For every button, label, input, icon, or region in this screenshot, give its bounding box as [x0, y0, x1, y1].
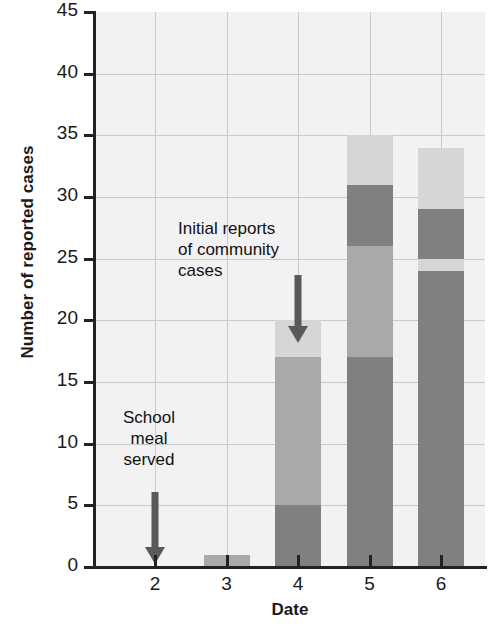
x-tick-mark	[440, 555, 443, 567]
gridline-vertical	[155, 12, 156, 567]
chart-figure: Number of reported cases School meal ser…	[0, 0, 499, 636]
y-tick-label: 15	[22, 369, 78, 391]
y-tick-mark	[84, 504, 95, 507]
bar-segment	[347, 357, 393, 567]
bar-segment	[418, 271, 464, 567]
y-tick-label: 0	[22, 554, 78, 576]
bar-segment	[347, 185, 393, 247]
y-tick-label: 45	[22, 0, 78, 21]
x-tick-mark	[226, 555, 229, 567]
x-tick-mark	[154, 555, 157, 567]
y-axis-line	[93, 11, 96, 569]
gridline-horizontal	[95, 135, 485, 136]
gridline-vertical	[227, 12, 228, 567]
x-tick-label: 4	[278, 573, 318, 595]
y-tick-mark	[84, 11, 95, 14]
annotation-label-community-cases: Initial reports of community cases	[178, 218, 279, 281]
y-tick-mark	[84, 196, 95, 199]
plot-area: School meal servedInitial reports of com…	[95, 12, 485, 567]
x-axis-title: Date	[95, 600, 485, 620]
x-axis-line	[93, 566, 487, 569]
y-tick-label: 5	[22, 492, 78, 514]
y-tick-mark	[84, 566, 95, 569]
x-tick-mark	[297, 555, 300, 567]
y-tick-label: 25	[22, 246, 78, 268]
x-tick-label: 3	[207, 573, 247, 595]
y-tick-label: 30	[22, 184, 78, 206]
y-tick-mark	[84, 443, 95, 446]
y-tick-mark	[84, 258, 95, 261]
annotation-label-school-meal: School meal served	[123, 407, 175, 470]
down-arrow-icon	[285, 275, 311, 343]
bar-segment	[418, 259, 464, 271]
bar-segment	[347, 246, 393, 357]
gridline-horizontal	[95, 74, 485, 75]
y-tick-label: 10	[22, 431, 78, 453]
x-tick-mark	[369, 555, 372, 567]
y-tick-mark	[84, 381, 95, 384]
down-arrow-icon	[142, 492, 168, 564]
y-tick-mark	[84, 319, 95, 322]
y-tick-mark	[84, 73, 95, 76]
bar-segment	[418, 209, 464, 258]
x-tick-label: 2	[135, 573, 175, 595]
bar-segment	[418, 148, 464, 210]
y-tick-label: 35	[22, 122, 78, 144]
y-tick-label: 20	[22, 307, 78, 329]
x-tick-label: 5	[350, 573, 390, 595]
bar-segment	[347, 135, 393, 184]
y-tick-mark	[84, 134, 95, 137]
bar-segment	[275, 357, 321, 505]
x-tick-label: 6	[421, 573, 461, 595]
y-tick-label: 40	[22, 61, 78, 83]
